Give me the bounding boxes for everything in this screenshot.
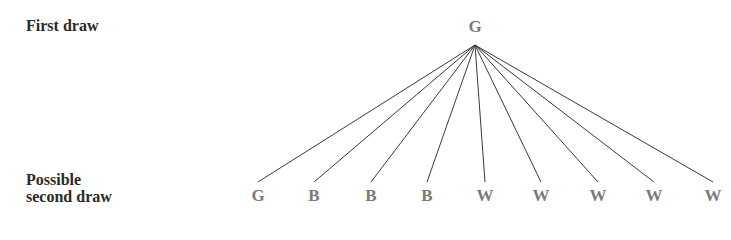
child-node: W	[590, 187, 607, 205]
child-node: B	[421, 187, 432, 205]
child-node: W	[533, 187, 550, 205]
edge-to-child-0	[258, 45, 475, 182]
child-node: B	[308, 187, 319, 205]
child-node: W	[646, 187, 663, 205]
child-node: W	[705, 187, 722, 205]
edge-to-child-4	[475, 45, 485, 182]
child-node: W	[477, 187, 494, 205]
edge-to-child-6	[475, 45, 598, 182]
edge-to-child-2	[371, 45, 475, 182]
child-node: B	[365, 187, 376, 205]
edge-to-child-8	[475, 45, 713, 182]
edge-to-child-7	[475, 45, 654, 182]
child-node: G	[251, 187, 264, 205]
edge-to-child-5	[475, 45, 541, 182]
